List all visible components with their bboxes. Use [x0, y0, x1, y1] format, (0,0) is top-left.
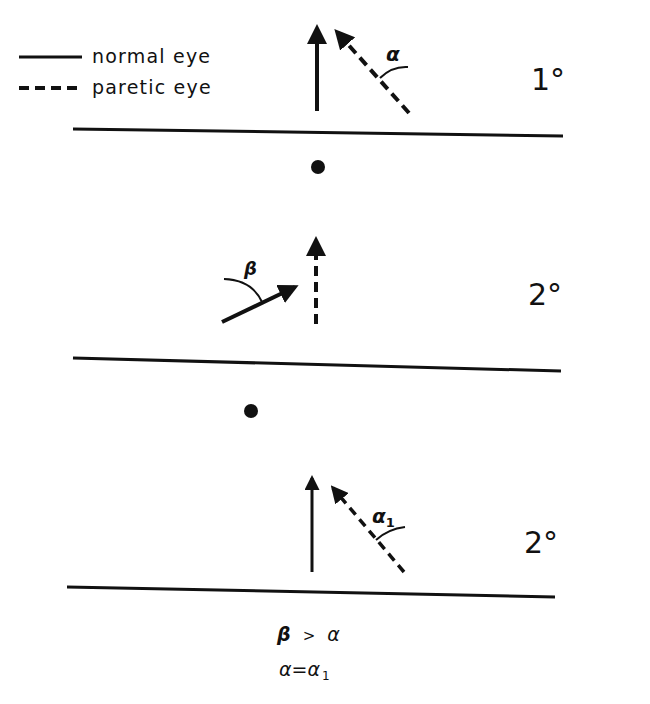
legend-item-normal-eye: normal eye — [19, 45, 211, 67]
separator-line — [73, 129, 563, 136]
angle-label-alpha: α — [386, 42, 400, 66]
panel-secondary-gaze-a: β 2° — [73, 160, 562, 371]
conclusion-alpha-eq-alpha1: α=α1 — [279, 658, 330, 683]
legend-label-paretic: paretic eye — [92, 76, 212, 98]
legend: normal eye paretic eye — [19, 45, 212, 98]
angle-arc-icon — [224, 279, 262, 302]
fixation-dot-icon — [244, 404, 258, 418]
angle-arc-icon — [380, 67, 408, 78]
fixation-dot-icon — [311, 160, 325, 174]
conclusions: β > α α=α1 — [276, 623, 340, 683]
angle-label-beta: β — [243, 258, 257, 279]
normal-eye-arrow-icon — [222, 287, 295, 322]
gaze-label-1: 1° — [531, 62, 565, 97]
legend-label-normal: normal eye — [92, 45, 211, 67]
angle-label-alpha1: α1 — [372, 504, 395, 530]
separator-line — [67, 587, 555, 597]
diagram-canvas: normal eye paretic eye α 1° β 2° α1 2° — [0, 0, 650, 704]
gaze-label-3: 2° — [524, 525, 558, 560]
separator-line — [73, 358, 561, 371]
legend-item-paretic-eye: paretic eye — [19, 76, 212, 98]
gaze-label-2: 2° — [528, 277, 562, 312]
panel-secondary-gaze-b: α1 2° — [67, 404, 558, 597]
conclusion-beta-gt-alpha: β > α — [276, 623, 340, 645]
